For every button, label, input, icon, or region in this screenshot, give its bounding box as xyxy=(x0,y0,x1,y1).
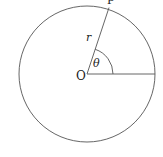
angle-label: θ xyxy=(93,57,100,70)
point-label: P xyxy=(107,0,115,7)
radius-label: r xyxy=(86,31,92,44)
center-label: O xyxy=(76,69,86,83)
polar-diagram: O P r θ xyxy=(0,0,163,157)
